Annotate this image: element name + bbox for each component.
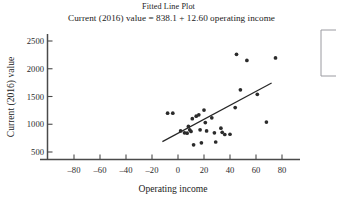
data-point — [255, 92, 259, 96]
y-axis-title: Current (2016) value — [5, 57, 17, 137]
y-tick-label-500: 500 — [31, 147, 44, 157]
data-point — [197, 113, 201, 117]
data-point — [219, 126, 223, 130]
data-point — [233, 106, 237, 110]
x-tick-label-40: 40 — [226, 165, 235, 175]
y-tick-label-2000: 2000 — [27, 64, 44, 74]
data-point — [166, 111, 170, 115]
x-tick-label-60: 60 — [252, 165, 261, 175]
data-point — [223, 133, 227, 137]
x-tick-label-0: 0 — [176, 165, 180, 175]
fitted-line-plot-figure: Fitted Line Plot Current (2016) value = … — [0, 0, 337, 199]
x-tick-label--80: –80 — [67, 165, 81, 175]
legend-box-frame — [321, 30, 336, 76]
x-tick-label-80: 80 — [278, 165, 287, 175]
x-tick-label--40: –40 — [119, 165, 133, 175]
x-axis-tick-labels: –80–60–40–20020406080 — [67, 165, 287, 175]
data-point — [210, 116, 214, 120]
data-point — [198, 128, 202, 132]
data-point — [179, 129, 183, 133]
data-point — [202, 108, 206, 112]
data-point — [185, 131, 189, 135]
data-point — [239, 88, 243, 92]
x-tick-label-20: 20 — [200, 165, 209, 175]
data-point — [274, 56, 278, 60]
data-point — [228, 132, 232, 136]
data-point — [192, 143, 196, 147]
data-point — [213, 131, 217, 135]
y-tick-label-1000: 1000 — [27, 119, 44, 129]
y-tick-label-2500: 2500 — [27, 36, 44, 46]
scatter-plot-canvas: 5001000150020002500 Current (2016) value… — [0, 0, 337, 199]
data-point — [245, 59, 249, 63]
data-point — [205, 129, 209, 133]
x-tick-label--20: –20 — [145, 165, 159, 175]
data-point — [187, 125, 191, 129]
x-axis: –80–60–40–20020406080 Operating income — [40, 155, 300, 195]
x-axis-title: Operating income — [139, 183, 208, 194]
data-point — [200, 141, 204, 145]
data-point — [203, 121, 207, 125]
data-point — [214, 140, 218, 144]
y-tick-label-1500: 1500 — [27, 92, 44, 102]
data-points-group — [166, 52, 278, 146]
y-axis-tick-labels: 5001000150020002500 — [27, 36, 44, 157]
regression-fit-line — [162, 83, 271, 142]
data-point — [190, 117, 194, 121]
x-tick-label--60: –60 — [93, 165, 107, 175]
data-point — [171, 111, 175, 115]
legend-box — [321, 30, 336, 76]
data-point — [265, 120, 269, 124]
data-point — [189, 130, 193, 134]
data-point — [235, 52, 239, 56]
y-axis: 5001000150020002500 Current (2016) value — [5, 34, 53, 159]
